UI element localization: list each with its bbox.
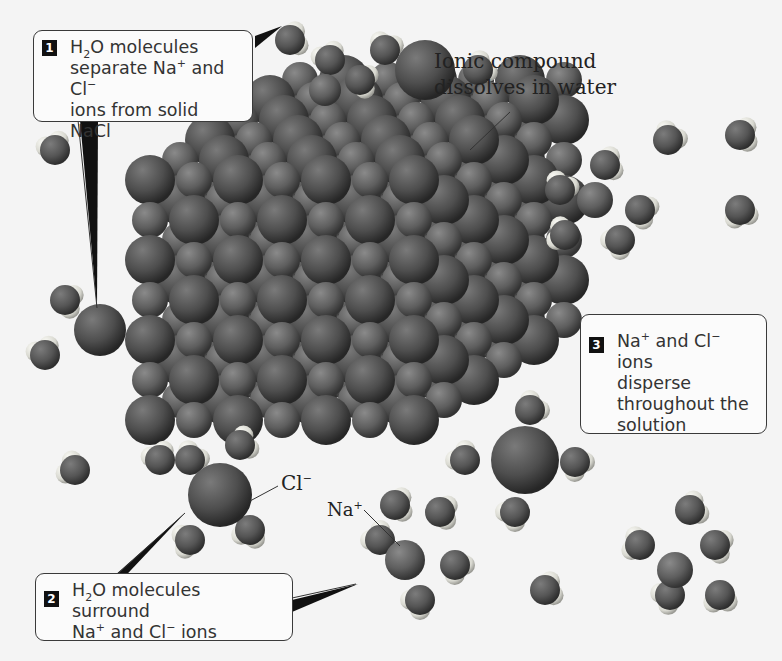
callout-step-3: 3 Na+ and Cl− ions disperse throughout t…: [580, 314, 767, 434]
callout-step-1: 1 H2O molecules separate Na+ and Cl− ion…: [33, 30, 253, 122]
callout-step-2: 2 H2O molecules surround Na+ and Cl− ion…: [35, 573, 293, 641]
chloride-label: Cl−: [281, 470, 312, 496]
main-label: Ionic compound dissolves in water: [434, 48, 616, 100]
sodium-label: Na+: [327, 497, 363, 523]
step-badge-2: 2: [44, 591, 59, 607]
step-badge-3: 3: [589, 337, 604, 353]
step-badge-1: 1: [42, 40, 57, 56]
